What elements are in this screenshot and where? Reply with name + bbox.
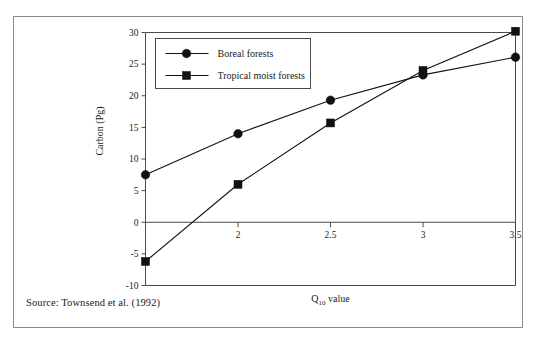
circle-marker-icon (234, 129, 243, 138)
y-tick-label: -10 (126, 281, 139, 291)
circle-marker-icon (511, 53, 520, 62)
y-tick-label: 25 (129, 59, 139, 69)
x-tick-label: 2.5 (325, 230, 337, 240)
square-marker-icon (327, 119, 335, 127)
x-tick-label: 2 (236, 230, 241, 240)
legend-label-2: Tropical moist forests (218, 70, 306, 81)
circle-marker-icon (326, 96, 335, 105)
x-tick-label: 3 (421, 230, 426, 240)
y-tick-label: 0 (134, 218, 139, 228)
y-axis-title: Carbon (Pg) (94, 106, 106, 155)
chart-canvas: -10-505101520253022.533.5Carbon (Pg)Q10 … (0, 0, 538, 341)
source-note: Source: Townsend et al. (1992) (26, 297, 160, 308)
y-tick-label: 5 (134, 186, 139, 196)
square-marker-icon (419, 66, 427, 74)
legend-circle-marker-icon (182, 49, 191, 58)
circle-marker-icon (141, 171, 150, 180)
x-tick-label: 3.5 (510, 230, 522, 240)
legend-label-1: Boreal forests (218, 48, 274, 59)
x-axis-title: Q10 value (311, 293, 350, 307)
legend-box (156, 39, 311, 89)
square-marker-icon (142, 257, 150, 265)
y-tick-label: -5 (131, 249, 139, 259)
square-marker-icon (234, 180, 242, 188)
y-tick-label: 20 (129, 91, 139, 101)
x-axis-title-text: Q10 value (311, 293, 350, 307)
y-tick-label: 30 (129, 28, 139, 38)
square-marker-icon (512, 27, 520, 35)
legend-square-marker-icon (183, 72, 191, 80)
y-tick-label: 15 (129, 123, 139, 133)
y-tick-label: 10 (129, 154, 139, 164)
